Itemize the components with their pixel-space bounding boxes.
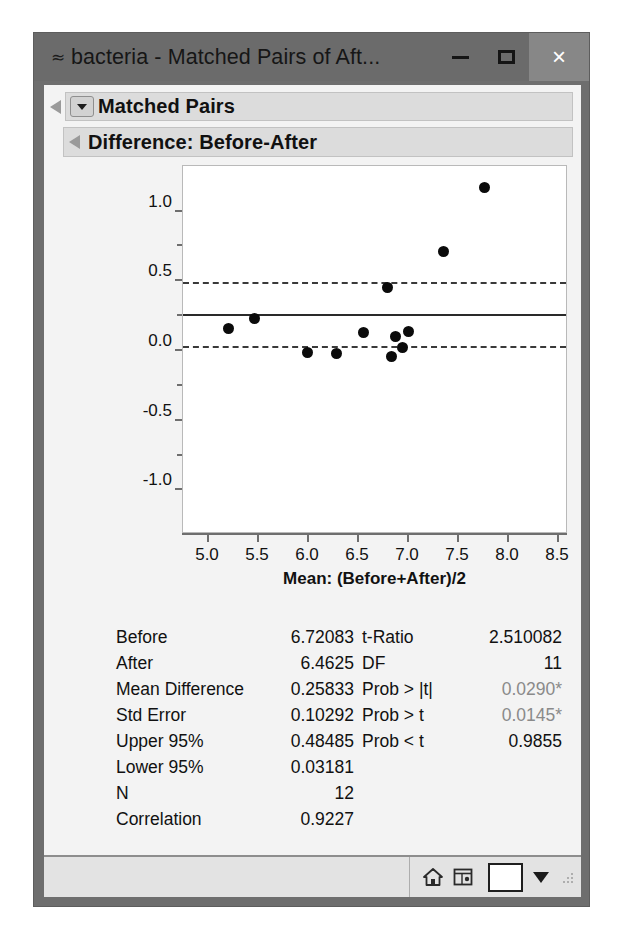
data-point[interactable] — [382, 282, 393, 293]
stats-row: Mean Difference0.25833Prob > |t|0.0290* — [116, 679, 581, 705]
y-tick-mark — [175, 419, 182, 421]
data-point[interactable] — [358, 327, 369, 338]
y-tick-mark-minor — [177, 314, 182, 316]
window-controls: × — [437, 33, 589, 81]
stat-value: 0.10292 — [262, 705, 354, 726]
stat-value-2: 0.0145* — [458, 705, 562, 726]
stat-value: 0.25833 — [262, 679, 354, 700]
y-tick-mark-minor — [177, 384, 182, 386]
stat-value: 0.03181 — [262, 757, 354, 778]
y-tick-label: 1.0 — [124, 192, 172, 212]
plot-area[interactable] — [182, 165, 567, 533]
stat-label: Mean Difference — [116, 679, 262, 700]
client-area: Matched Pairs Difference: Before-After D… — [44, 85, 581, 897]
close-button[interactable]: × — [529, 33, 589, 81]
close-icon: × — [552, 43, 566, 71]
stat-value-2: 2.510082 — [458, 627, 562, 648]
resize-grip[interactable] — [559, 869, 575, 885]
stat-label-2: Prob > t — [354, 705, 458, 726]
data-point[interactable] — [223, 323, 234, 334]
stat-label: Std Error — [116, 705, 262, 726]
y-axis-tick-labels: 1.00.50.0-0.5-1.0 — [116, 157, 172, 525]
data-point[interactable] — [386, 351, 397, 362]
stat-label: After — [116, 653, 262, 674]
y-tick-mark — [175, 279, 182, 281]
red-triangle-menu-button[interactable] — [70, 96, 94, 117]
data-point[interactable] — [438, 246, 449, 257]
data-point[interactable] — [390, 331, 401, 342]
data-point[interactable] — [397, 342, 408, 353]
stats-row: Before6.72083t-Ratio2.510082 — [116, 627, 581, 653]
stat-label: N — [116, 783, 262, 804]
color-dropdown-caret-icon[interactable] — [533, 872, 549, 883]
data-point[interactable] — [331, 348, 342, 359]
stat-label: Before — [116, 627, 262, 648]
stat-value: 0.48485 — [262, 731, 354, 752]
window-title: bacteria - Matched Pairs of Aft... — [71, 45, 437, 70]
outline-bar-matched-pairs[interactable]: Matched Pairs — [65, 92, 573, 121]
stat-label: Correlation — [116, 809, 262, 830]
color-swatch[interactable] — [488, 863, 523, 892]
stat-label-2: t-Ratio — [354, 627, 458, 648]
stat-value: 0.9227 — [262, 809, 354, 830]
stats-row: Correlation0.9227 — [116, 809, 581, 835]
x-axis-label: Mean: (Before+After)/2 — [182, 569, 567, 589]
stat-value-2: 0.0290* — [458, 679, 562, 700]
stat-label: Upper 95% — [116, 731, 262, 752]
stats-row: Std Error0.10292Prob > t0.0145* — [116, 705, 581, 731]
y-tick-mark — [175, 488, 182, 490]
stats-row: After6.4625DF11 — [116, 653, 581, 679]
section-title-difference: Difference: Before-After — [82, 131, 317, 154]
status-bar — [44, 855, 581, 897]
chevron-down-icon — [77, 104, 87, 110]
title-bar[interactable]: ≈ bacteria - Matched Pairs of Aft... × — [34, 33, 589, 81]
outline-difference[interactable]: Difference: Before-After — [44, 121, 581, 157]
outline-bar-difference[interactable]: Difference: Before-After — [63, 127, 573, 157]
y-tick-mark-minor — [177, 454, 182, 456]
section-title-matched-pairs: Matched Pairs — [98, 95, 235, 118]
y-tick-mark-minor — [177, 244, 182, 246]
disclosure-triangle-icon-2[interactable] — [69, 135, 80, 149]
stat-label: Lower 95% — [116, 757, 262, 778]
stat-label-2: DF — [354, 653, 458, 674]
upper-95-line — [183, 282, 566, 284]
lower-95-line — [183, 346, 566, 348]
application-window: ≈ bacteria - Matched Pairs of Aft... × — [33, 32, 590, 907]
data-point[interactable] — [403, 326, 414, 337]
data-point[interactable] — [302, 347, 313, 358]
x-axis-line — [182, 533, 567, 535]
outline-matched-pairs[interactable]: Matched Pairs — [44, 85, 581, 121]
mean-difference-line — [183, 314, 566, 316]
report-content: Matched Pairs Difference: Before-After D… — [44, 85, 581, 855]
y-tick-mark — [175, 210, 182, 212]
jmp-icon[interactable]: ≈ — [45, 49, 71, 66]
y-tick-label: 0.5 — [124, 261, 172, 281]
maximize-button[interactable] — [483, 33, 529, 81]
y-tick-label: -1.0 — [124, 470, 172, 490]
stats-row: N12 — [116, 783, 581, 809]
minimize-icon — [452, 56, 469, 59]
stat-value: 12 — [262, 783, 354, 804]
statistics-table: Before6.72083t-Ratio2.510082After6.4625D… — [44, 627, 581, 835]
stats-row: Upper 95%0.48485Prob < t0.9855 — [116, 731, 581, 757]
stat-label-2: Prob > |t| — [354, 679, 458, 700]
stats-row: Lower 95%0.03181 — [116, 757, 581, 783]
stat-value: 6.4625 — [262, 653, 354, 674]
status-bar-tools — [409, 857, 581, 897]
disclosure-triangle-icon[interactable] — [50, 100, 61, 114]
report-window-icon[interactable] — [448, 862, 478, 892]
stat-value: 6.72083 — [262, 627, 354, 648]
data-point[interactable] — [479, 182, 490, 193]
stat-value-2: 11 — [458, 653, 562, 674]
minimize-button[interactable] — [437, 33, 483, 81]
home-icon[interactable] — [418, 862, 448, 892]
data-point[interactable] — [249, 313, 260, 324]
y-tick-label: -0.5 — [124, 401, 172, 421]
maximize-icon — [498, 50, 515, 64]
x-tick-label: 8.5 — [527, 545, 581, 565]
stat-label-2: Prob < t — [354, 731, 458, 752]
screenshot-root: ≈ bacteria - Matched Pairs of Aft... × — [0, 0, 624, 942]
y-tick-mark — [175, 349, 182, 351]
y-tick-label: 0.0 — [124, 331, 172, 351]
matched-pairs-chart: Difference: Before-After 1.00.50.0-0.5-1… — [44, 157, 581, 577]
